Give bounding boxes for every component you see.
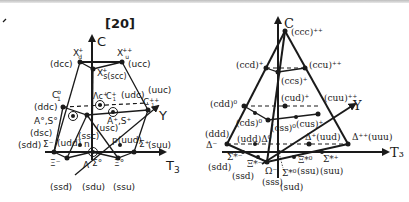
corner-mark <box>3 19 6 22</box>
label-xi-star-minus: Ξ*⁻ <box>247 159 263 169</box>
edge <box>63 107 148 115</box>
left-diagram-20plet: [20] C T3 Y <box>18 16 180 192</box>
bottom-label-ssu: (ssu) <box>113 182 135 192</box>
label-xd: X+d <box>73 46 83 60</box>
label-omega-minus: Ω⁻ <box>265 166 277 176</box>
label-cus: (cus)⁺ <box>296 119 323 129</box>
label-sigma0: Σ° <box>92 158 102 168</box>
point-css <box>266 118 271 123</box>
label-usc: (usc) <box>96 123 118 133</box>
label-delta-pp-uuu: Δ⁺⁺(uuu) <box>352 132 392 142</box>
point-uuu <box>346 142 351 147</box>
point-scc <box>91 67 96 72</box>
baryon-multiplet-diagrams: [20] C T3 Y <box>0 0 409 202</box>
point-ccc <box>283 29 288 34</box>
dashed-edge <box>63 103 148 107</box>
point-ccs <box>276 70 281 75</box>
label-n: n <box>84 139 90 149</box>
label-sdd: (sdd) <box>18 140 41 150</box>
label-sigma-star-minus: Σ*⁻ <box>227 152 243 162</box>
bottom-label-ssd: (ssd) <box>50 182 72 192</box>
label-lambda: Λ <box>83 160 90 170</box>
bottom-label-sdu: (sdu) <box>82 182 105 192</box>
c-axis-label: C <box>97 34 106 49</box>
point-cds <box>253 111 257 115</box>
point-ddd <box>225 142 230 147</box>
label-cdd: (cdd)⁰ <box>210 99 238 109</box>
point-dcc <box>78 60 83 65</box>
label-suu: (suu) <box>148 140 171 150</box>
point-uuc <box>146 108 151 113</box>
label-ccu: (ccu)⁺⁺ <box>309 60 342 70</box>
label-p-uud: p(uud) <box>112 135 142 145</box>
label-ccd: (ccd)⁺ <box>236 60 264 70</box>
label-ddd: (ddd) <box>205 129 229 139</box>
ringed-point-a0s0 <box>69 112 78 121</box>
label-xi-star0: Ξ*⁰ <box>298 155 313 165</box>
label-delta-minus: Δ⁻ <box>206 140 217 150</box>
point-ssu <box>292 155 296 159</box>
point-cdd <box>242 104 247 109</box>
label-ccc: (ccc)⁺⁺ <box>291 27 323 37</box>
label-delta-plus-uud: Δ⁺(uud) <box>305 132 341 142</box>
right-diagram-20plet: C T₃ Y <box>205 16 404 192</box>
leader-line <box>279 153 283 168</box>
point-ccd <box>264 66 269 71</box>
label-udd: (udd) <box>57 138 81 148</box>
point-ucc <box>120 60 125 65</box>
label-xi-minus: Ξ⁻ <box>50 158 61 168</box>
point-cuu <box>316 112 321 117</box>
point-ssc <box>85 113 90 118</box>
ringed-point-lambda-c <box>96 101 105 110</box>
point-sdd <box>52 150 57 155</box>
point-ssd <box>65 156 70 161</box>
label-ucc: (ucc) <box>128 59 151 69</box>
label-xs: X+s(scc) <box>97 66 127 81</box>
label-dsc: (dsc) <box>30 128 52 138</box>
label-dcc: (dcc) <box>50 59 73 69</box>
label-sigma-star0: Σ*⁰ <box>282 168 297 178</box>
point-ccu <box>303 66 308 71</box>
point-cud <box>283 104 288 109</box>
label-sdd: (sdd) <box>208 162 231 172</box>
label-ccs: (ccs)⁺ <box>281 76 308 86</box>
point-suu <box>132 150 137 155</box>
t3-axis-label: T3 <box>165 158 180 175</box>
label-cds: (cds)⁰ <box>236 118 262 128</box>
t3-axis-label: T₃ <box>390 145 404 160</box>
label-cuu: (cuu)⁺⁺ <box>324 93 357 103</box>
label-cud: (cud)⁺ <box>281 93 310 103</box>
label-ddc: (ddc) <box>34 102 57 112</box>
label-udd-delta0: (udd)Δ⁰ <box>237 134 272 144</box>
label-uuc: (uuc) <box>148 85 171 95</box>
label-xi0: Ξ° <box>114 158 124 168</box>
label-xu: X++u <box>117 46 132 60</box>
label-ssd: (ssd) <box>232 171 254 181</box>
label-a0s0: A°,S° <box>34 116 58 126</box>
point-sss <box>265 160 270 165</box>
label-sigma-star-plus: Σ*⁺ <box>323 154 339 164</box>
point-uud <box>307 142 312 147</box>
label-udc: (udc) <box>121 90 144 100</box>
edge <box>266 68 305 72</box>
label-c1-0: Co1 <box>52 88 61 102</box>
label-c1p: C+1 <box>106 90 117 102</box>
label-ssu: (ssu) <box>297 166 319 176</box>
point-ddc <box>61 105 66 110</box>
label-sigma-minus: Σ⁻ <box>43 139 54 149</box>
label-suu: (suu) <box>320 166 343 176</box>
multiplet-title: [20] <box>105 16 135 31</box>
label-sud: (sud) <box>280 182 303 192</box>
label-css: (css)⁰ <box>271 123 296 133</box>
y-axis-label: Y <box>158 108 167 123</box>
